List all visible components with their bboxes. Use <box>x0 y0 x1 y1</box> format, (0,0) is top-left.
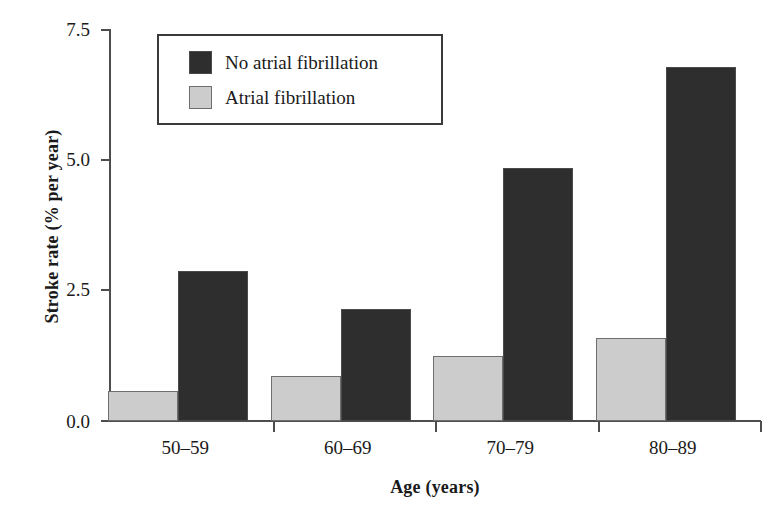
y-tick-2.5 <box>101 289 110 291</box>
bar-atrial-fibrillation-50–59 <box>108 391 178 421</box>
x-axis-title: Age (years) <box>110 477 760 498</box>
bar-no-atrial-fibrillation-50–59 <box>178 271 248 421</box>
x-tick-2 <box>435 421 437 432</box>
chart-figure: Stroke rate (% per year) 7.5 5.0 2.5 0.0… <box>0 0 776 521</box>
bar-no-atrial-fibrillation-70–79 <box>503 168 573 421</box>
x-tick-label-70–79: 70–79 <box>440 437 580 459</box>
x-tick-label-60–69: 60–69 <box>278 437 418 459</box>
y-tick-label-5.0: 5.0 <box>30 150 90 169</box>
y-axis-title: Stroke rate (% per year) <box>42 77 63 377</box>
x-tick-3 <box>598 421 600 432</box>
bar-atrial-fibrillation-60–69 <box>271 376 341 421</box>
x-tick-4 <box>760 421 762 432</box>
legend-label-no-atrial-fibrillation: No atrial fibrillation <box>225 52 378 73</box>
legend-label-atrial-fibrillation: Atrial fibrillation <box>225 87 355 108</box>
y-tick-5.0 <box>101 159 110 161</box>
dark-swatch-icon <box>189 51 212 74</box>
legend-item-no-atrial-fibrillation[interactable]: No atrial fibrillation <box>189 49 378 75</box>
x-tick-label-80–89: 80–89 <box>603 437 743 459</box>
bar-atrial-fibrillation-70–79 <box>433 356 503 421</box>
y-tick-7.5 <box>101 29 110 31</box>
bar-atrial-fibrillation-80–89 <box>596 338 666 421</box>
bar-no-atrial-fibrillation-80–89 <box>666 67 736 421</box>
x-tick-1 <box>273 421 275 432</box>
light-swatch-icon <box>189 86 212 109</box>
y-tick-label-2.5: 2.5 <box>30 280 90 299</box>
y-tick-label-7.5: 7.5 <box>30 20 90 39</box>
top-caption <box>60 0 720 8</box>
x-tick-label-50–59: 50–59 <box>115 437 255 459</box>
bar-no-atrial-fibrillation-60–69 <box>341 309 411 421</box>
chart-legend: No atrial fibrillation Atrial fibrillati… <box>157 34 443 125</box>
legend-item-atrial-fibrillation[interactable]: Atrial fibrillation <box>189 84 355 110</box>
y-tick-label-0.0: 0.0 <box>30 412 90 431</box>
